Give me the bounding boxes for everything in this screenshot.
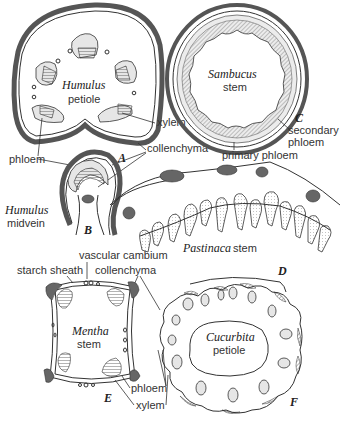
vascular-bundle [72, 34, 98, 58]
panel-b-letter: B [83, 223, 92, 237]
plant-anatomy-diagram: Humulus petiole xylem phloem collenchyma… [0, 0, 349, 423]
panel-c-sambucus-stem: Sambucus stem C secondary phloem primary… [167, 5, 339, 161]
panel-f-name: Cucurbita [206, 330, 255, 344]
panel-f-part: petiole [213, 344, 245, 356]
panel-e-name: Mentha [71, 324, 109, 338]
label-secondary-phloem-1: secondary [288, 124, 339, 136]
label-collenchyma-e: collenchyma [95, 264, 157, 276]
panel-d-part: stem [233, 242, 257, 254]
vascular-bundle [32, 105, 64, 123]
panel-b-part: midvein [7, 217, 45, 229]
panel-f-letter: F [289, 395, 298, 409]
panel-c-name: Sambucus [208, 67, 257, 81]
panel-e-mentha-stem: vascular cambium starch sheath collenchy… [17, 249, 168, 411]
vascular-bundle [98, 104, 132, 122]
panel-c-part: stem [223, 81, 247, 93]
label-starch-sheath: starch sheath [17, 264, 83, 276]
panel-e-letter: E [103, 391, 112, 405]
panel-f-cucurbita-petiole: Cucurbita petiole F [160, 277, 302, 413]
panel-d-letter: D [277, 264, 287, 278]
panel-a-part: petiole [68, 93, 100, 105]
panel-e-part: stem [77, 338, 101, 350]
label-vascular-cambium: vascular cambium [79, 249, 168, 261]
label-primary-phloem: primary phloem [222, 149, 298, 161]
label-secondary-phloem-2: phloem [288, 136, 324, 148]
panel-a-letter: A [117, 151, 126, 165]
panel-c-letter: C [295, 111, 304, 125]
label-xylem-e: xylem [136, 399, 165, 411]
label-phloem-e: phloem [131, 382, 167, 394]
panel-b-name: Humulus [4, 203, 49, 217]
panel-d-name: Pastinaca [182, 241, 231, 255]
panel-a-name: Humulus [61, 78, 106, 92]
vascular-bundle [115, 61, 137, 84]
vascular-bundle [36, 62, 57, 85]
